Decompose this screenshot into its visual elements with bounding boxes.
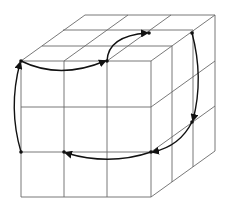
- cycle-arrows: [14, 33, 198, 159]
- point-p3: [147, 31, 151, 35]
- right-face-grid: [151, 15, 215, 197]
- point-p4: [190, 31, 194, 35]
- point-p2: [105, 59, 109, 63]
- cube-diagram: [0, 0, 227, 207]
- front-face-grid: [21, 61, 151, 197]
- arrow-p8-p1: [14, 63, 21, 152]
- arrow-p1-p2: [21, 61, 105, 71]
- point-p7: [62, 150, 66, 154]
- point-p5: [190, 120, 194, 124]
- top-face-grid: [21, 15, 215, 61]
- point-p1: [19, 59, 23, 63]
- arrow-p6-p7: [66, 152, 151, 159]
- point-p8: [19, 150, 23, 154]
- point-p6: [149, 150, 153, 154]
